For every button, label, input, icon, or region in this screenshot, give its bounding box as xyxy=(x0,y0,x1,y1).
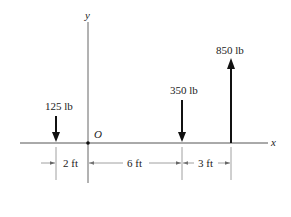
y-axis-label: y xyxy=(84,9,90,21)
force-850-label: 850 lb xyxy=(216,44,244,56)
dimension-3ft: 3 ft xyxy=(183,157,230,169)
arrow-down-icon xyxy=(178,132,186,142)
force-350-label: 350 lb xyxy=(170,84,198,96)
force-350lb: 350 lb xyxy=(170,84,198,142)
arrow-down-icon xyxy=(52,132,60,142)
arrow-up-icon xyxy=(227,58,235,69)
dimension-3ft-label: 3 ft xyxy=(198,157,213,169)
origin-point xyxy=(86,141,90,145)
dimension-2ft-label: 2 ft xyxy=(63,157,78,169)
force-diagram: y x O 125 lb 350 lb 850 lb 2 ft 6 ft xyxy=(0,0,291,217)
dimension-6ft: 6 ft xyxy=(89,157,181,169)
origin-label: O xyxy=(94,128,102,140)
force-125-label: 125 lb xyxy=(45,100,73,112)
dimension-6ft-label: 6 ft xyxy=(127,157,142,169)
force-850lb: 850 lb xyxy=(216,44,244,143)
x-axis-label: x xyxy=(270,136,276,148)
dimension-2ft: 2 ft xyxy=(41,157,94,169)
force-125lb: 125 lb xyxy=(45,100,73,142)
